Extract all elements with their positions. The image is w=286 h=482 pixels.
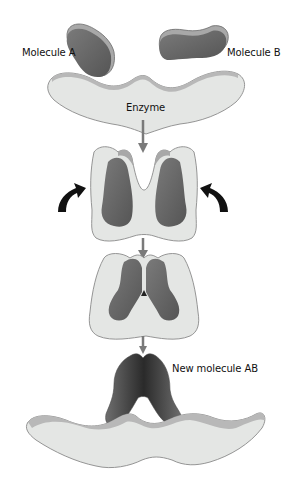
label-new-molecule-ab: New molecule AB — [172, 363, 258, 374]
label-molecule-a: Molecule A — [22, 47, 75, 58]
enzyme-stage-3 — [89, 254, 198, 340]
label-enzyme: Enzyme — [126, 102, 165, 113]
enzyme-diagram — [0, 0, 286, 482]
molecule-ab — [106, 354, 182, 426]
enzyme-stage-4 — [26, 413, 264, 468]
label-molecule-b: Molecule B — [227, 47, 280, 58]
down-arrow-3 — [139, 336, 147, 354]
enzyme-stage-2 — [91, 147, 198, 241]
molecule-b — [159, 26, 228, 60]
curved-arrow-right-icon — [200, 183, 228, 212]
curved-arrow-left-icon — [58, 183, 86, 212]
